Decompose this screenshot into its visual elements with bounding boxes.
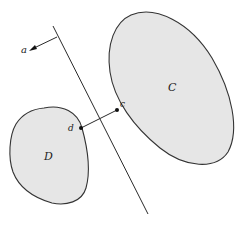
separating-hyperplane-diagram: C D a c d bbox=[0, 0, 243, 226]
normal-vector: a bbox=[21, 37, 57, 55]
point-c-label: c bbox=[120, 99, 125, 109]
point-d-dot bbox=[79, 126, 83, 130]
set-c: C bbox=[109, 12, 234, 164]
normal-vector-label: a bbox=[21, 44, 27, 55]
set-d: D bbox=[10, 107, 88, 204]
point-d-label: d bbox=[68, 123, 74, 133]
point-c-dot bbox=[115, 108, 119, 112]
arrowhead-icon bbox=[29, 45, 37, 51]
set-c-label: C bbox=[168, 81, 177, 94]
set-d-label: D bbox=[43, 150, 53, 163]
point-c: c bbox=[115, 99, 125, 112]
distance-segment bbox=[81, 110, 117, 128]
